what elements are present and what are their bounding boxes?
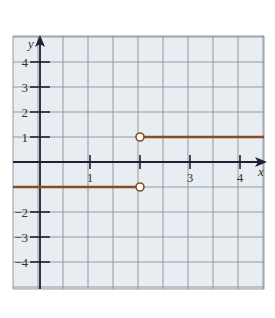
- open-point-marker: [136, 183, 144, 191]
- y-tick-label: −3: [14, 230, 28, 245]
- y-axis-label: y: [26, 36, 34, 51]
- y-tick-label: −4: [14, 255, 28, 270]
- x-tick-label: 1: [87, 170, 94, 185]
- x-tick-label: 3: [187, 170, 194, 185]
- x-tick-label: 4: [237, 170, 244, 185]
- y-tick-label: 1: [22, 130, 29, 145]
- x-axis-label: x: [257, 164, 264, 179]
- y-tick-label: −2: [14, 205, 28, 220]
- y-tick-label: 3: [22, 80, 29, 95]
- step-function-chart: 1344321−2−3−4 x y: [0, 0, 275, 318]
- y-tick-label: 2: [22, 105, 29, 120]
- y-tick-label: 4: [22, 55, 29, 70]
- open-point-marker: [136, 133, 144, 141]
